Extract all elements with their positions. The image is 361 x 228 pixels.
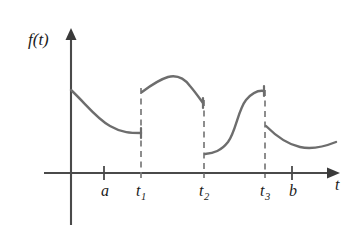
tick-label-t3: t3 <box>260 182 270 202</box>
curve-segment-1 <box>71 90 141 133</box>
function-graph-svg: f(t) t a t1 t2 t3 b <box>0 0 361 228</box>
tick-label-t1: t1 <box>136 182 146 202</box>
curve-segment-4 <box>266 126 336 148</box>
tick-labels: a t1 t2 t3 b <box>101 182 297 202</box>
y-axis-arrowhead <box>66 28 77 40</box>
tick-label-t2: t2 <box>199 182 210 202</box>
tick-label-t1-subscript: 1 <box>141 191 146 202</box>
x-axis-label: t <box>335 176 340 193</box>
curve-segment-3 <box>205 91 264 154</box>
endpoint-bars <box>141 86 264 138</box>
tick-label-t3-subscript: 3 <box>264 191 270 202</box>
y-axis-label: f(t) <box>28 30 49 49</box>
tick-label-b: b <box>289 182 297 199</box>
curve-segment-2 <box>142 76 203 103</box>
figure-container: f(t) t a t1 t2 t3 b <box>0 0 361 228</box>
tick-label-a: a <box>101 182 109 199</box>
tick-label-t2-subscript: 2 <box>204 191 210 202</box>
